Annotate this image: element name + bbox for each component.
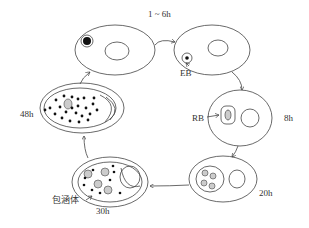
label-inclusion-body: 包涵体 xyxy=(52,194,79,205)
cell-stage-30h xyxy=(72,157,148,207)
label-eb: EB xyxy=(180,68,192,78)
cell-stage-8h xyxy=(208,90,272,146)
label-rb: RB xyxy=(192,113,204,123)
label-1-6h: 1 ~ 6h xyxy=(148,9,171,19)
label-8h: 8h xyxy=(284,113,294,123)
label-48h: 48h xyxy=(20,109,34,119)
chlamydia-cycle-diagram: 1 ~ 6h EB RB 8h 20h 30h 包涵体 48h xyxy=(0,0,309,228)
label-30h: 30h xyxy=(96,206,110,216)
label-20h: 20h xyxy=(259,188,273,198)
cell-stage-0 xyxy=(75,25,155,75)
cell-stage-48h xyxy=(40,83,124,133)
cell-stage-20h xyxy=(189,156,257,202)
